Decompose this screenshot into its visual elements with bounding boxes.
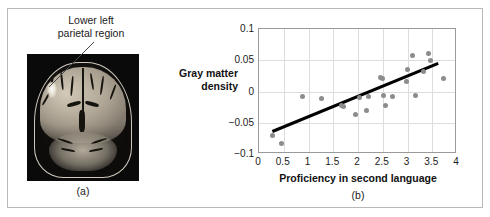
scatter-point	[380, 76, 385, 81]
figure-frame: Lower left parietal region (a)	[7, 8, 483, 208]
x-axis-title: Proficiency in second language	[238, 172, 478, 184]
coronal-mri-brain-scan	[27, 54, 139, 181]
y-axis-tick-label: 0.1	[208, 23, 254, 34]
panel-a-caption: (a)	[27, 185, 139, 197]
parietal-region-annotation-label: Lower left parietal region	[36, 14, 146, 39]
scatter-point	[404, 79, 409, 84]
scatter-point	[441, 76, 446, 81]
scatter-point	[341, 104, 346, 109]
x-axis-tick-labels: 00.511.522.533.54	[258, 156, 456, 170]
linear-trendline	[259, 29, 457, 154]
scatter-point	[410, 53, 415, 58]
y-axis-tick-labels: 0.10.050−0.05−0.1	[206, 28, 254, 153]
panel-a: Lower left parietal region (a)	[8, 9, 158, 209]
panel-b: Gray matter density 0.10.050−0.05−0.1 00…	[158, 9, 484, 209]
brainstem-mark	[79, 110, 85, 132]
y-axis-tick-label: −0.05	[208, 116, 254, 127]
scatter-point	[421, 69, 426, 74]
x-axis-tick-label: 4	[441, 156, 471, 167]
y-axis-tick-label: 0	[208, 85, 254, 96]
parietal-activation-highlight	[47, 82, 57, 98]
scatter-plot-area	[258, 28, 456, 153]
panel-b-caption: (b)	[238, 189, 478, 201]
scatter-point	[319, 96, 324, 101]
scatter-point	[353, 112, 358, 117]
y-axis-tick-label: 0.05	[208, 54, 254, 65]
